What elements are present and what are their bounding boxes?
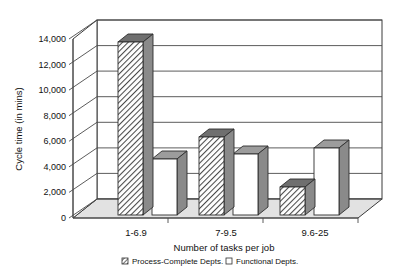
legend-label-functional: Functional Depts.	[236, 257, 298, 266]
y-tick-label: 10,000	[38, 85, 66, 95]
legend-label-process-complete: Process-Complete Depts.	[132, 257, 223, 266]
y-tick-label: 6,000	[43, 136, 66, 146]
x-tick-label: 1-6.9	[125, 227, 147, 238]
white-swatch-icon	[226, 258, 232, 264]
bar-process-complete-1	[118, 34, 153, 215]
bar-functional-3	[314, 140, 349, 215]
y-tick-label: 2,000	[43, 187, 66, 197]
bar-process-complete-2	[199, 129, 234, 215]
legend: Process-Complete Depts. Functional Depts…	[122, 257, 298, 266]
x-axis-tick-labels: 1-6.9 7-9.5 9.6-25	[125, 227, 328, 238]
y-tick-label: 14,000	[38, 34, 66, 44]
bar-functional-1	[152, 151, 187, 215]
x-axis	[73, 218, 358, 223]
x-tick-label: 7-9.5	[215, 227, 237, 238]
bar-chart: 14,000 12,000 10,000 8,000 6,000 4,000 2…	[0, 0, 401, 276]
bar-process-complete-3	[280, 179, 315, 215]
chart-canvas: 14,000 12,000 10,000 8,000 6,000 4,000 2…	[0, 0, 401, 276]
bar-functional-2	[233, 146, 268, 215]
left-wall	[73, 20, 97, 218]
x-tick-label: 9.6-25	[302, 227, 329, 238]
y-tick-label: 12,000	[38, 60, 66, 70]
x-axis-title: Number of tasks per job	[174, 242, 275, 253]
y-tick-label: 0	[61, 213, 66, 223]
hatched-swatch-icon	[122, 258, 128, 264]
y-tick-label: 8,000	[43, 111, 66, 121]
y-tick-label: 4,000	[43, 162, 66, 172]
y-axis-tick-labels: 14,000 12,000 10,000 8,000 6,000 4,000 2…	[38, 34, 66, 223]
y-axis-title: Cycle time (in mins)	[13, 87, 24, 170]
